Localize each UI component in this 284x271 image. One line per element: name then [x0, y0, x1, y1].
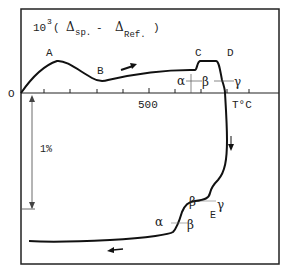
heating-direction-arrow: [121, 63, 137, 70]
svg-text:sp.: sp.: [75, 28, 91, 38]
svg-text:Δ: Δ: [115, 20, 124, 34]
svg-text:3: 3: [47, 17, 52, 26]
point-label-c: C: [195, 47, 202, 59]
scale-bar-label: 1%: [40, 144, 52, 155]
origin-label: O: [8, 88, 15, 100]
x-axis-ticks: [44, 88, 249, 93]
svg-text:): ): [153, 22, 160, 34]
svg-text:-: -: [96, 22, 103, 34]
heating-gamma-label: γ: [234, 75, 241, 89]
svg-text:Δ: Δ: [66, 20, 75, 34]
heating-curve: [21, 61, 225, 93]
point-label-e: E: [210, 210, 216, 221]
point-label-a: A: [46, 47, 53, 59]
point-label-b: B: [97, 65, 104, 77]
dilatometry-diagram: O 500 T°C 10 3 ( Δ sp. - Δ Ref. ) 1% A: [0, 0, 284, 271]
cooling-left-arrow: [107, 247, 123, 253]
y-axis-label: 10 3 ( Δ sp. - Δ Ref. ): [33, 17, 160, 40]
x-tick-label-500: 500: [138, 99, 158, 111]
cooling-beta-bottom-label: β: [187, 218, 194, 232]
heating-beta-label: β: [202, 75, 209, 89]
cooling-gamma-label: γ: [217, 198, 224, 212]
svg-text:(: (: [53, 22, 60, 34]
cooling-beta-top-label: β: [189, 195, 196, 209]
svg-text:Ref.: Ref.: [124, 30, 146, 40]
plot-frame: [21, 9, 279, 264]
scale-bar-1-percent: [22, 95, 35, 209]
heating-alpha-label: α: [177, 74, 185, 88]
cooling-curve: [29, 93, 227, 242]
x-axis-label: T°C: [232, 99, 252, 111]
svg-text:10: 10: [33, 22, 46, 34]
cooling-alpha-label: α: [155, 215, 163, 229]
point-label-d: D: [227, 47, 234, 59]
cooling-down-arrow: [228, 136, 234, 151]
